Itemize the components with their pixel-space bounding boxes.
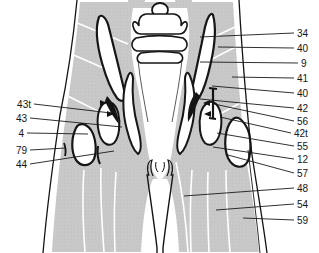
label-left-43t: 43t bbox=[17, 99, 31, 110]
sacral-base-slab bbox=[137, 52, 182, 64]
vertebral-body-slab bbox=[132, 36, 187, 51]
label-right-56: 56 bbox=[297, 116, 309, 127]
label-right-41: 41 bbox=[297, 73, 309, 84]
label-right-40: 40 bbox=[297, 43, 309, 54]
label-right-12: 12 bbox=[297, 154, 309, 165]
label-right-59: 59 bbox=[297, 215, 309, 226]
figure-plate: 43t4347944344094140425642t551257485459 bbox=[0, 0, 319, 253]
label-left-4: 4 bbox=[18, 128, 24, 139]
label-right-48: 48 bbox=[297, 183, 309, 194]
label-right-57: 57 bbox=[297, 168, 309, 179]
anatomical-diagram: 43t4347944344094140425642t551257485459 bbox=[0, 0, 319, 253]
label-right-40: 40 bbox=[297, 88, 309, 99]
leader-line-right-41 bbox=[232, 77, 294, 78]
right-femur-trochanter bbox=[225, 118, 250, 167]
label-right-9: 9 bbox=[301, 58, 307, 69]
label-right-34: 34 bbox=[297, 28, 309, 39]
leader-line-left-79 bbox=[30, 148, 66, 150]
label-left-43: 43 bbox=[16, 113, 28, 124]
right-femoral-head bbox=[200, 102, 222, 145]
label-right-55: 55 bbox=[297, 141, 309, 152]
left-femoral-head bbox=[98, 102, 120, 145]
label-left-44: 44 bbox=[16, 159, 28, 170]
label-left-79: 79 bbox=[16, 145, 28, 156]
label-right-42: 42 bbox=[297, 103, 309, 114]
vertebra-transverse-processes bbox=[133, 14, 187, 34]
left-femur-trochanter bbox=[72, 124, 95, 165]
label-right-54: 54 bbox=[297, 199, 309, 210]
label-right-42t: 42t bbox=[294, 128, 308, 139]
